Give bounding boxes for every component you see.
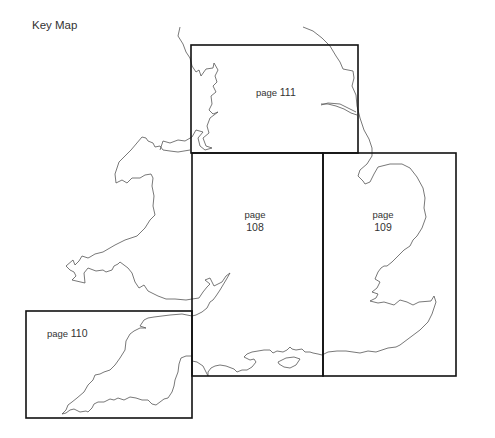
page-108-label[interactable]: page 108 [240,209,270,233]
page-110-prefix: page [47,328,68,339]
page-111-label[interactable]: page 111 [256,86,296,99]
page-109-prefix: page [372,209,393,220]
coastline-south [192,347,322,376]
coastline-isle-of-wight [278,357,300,368]
coastline-wales [66,137,230,316]
coastline-humber [321,103,357,115]
page-111-number: 111 [280,86,296,98]
page-108-box[interactable] [192,153,323,376]
page-109-number: 109 [368,221,398,233]
page-111-box[interactable] [191,45,358,153]
page-111-prefix: page [256,87,277,98]
page-108-number: 108 [240,221,270,233]
page-110-number: 110 [71,327,88,339]
page-109-label[interactable]: page 109 [368,209,398,233]
page-108-prefix: page [244,209,265,220]
page-110-label[interactable]: page 110 [47,327,88,340]
